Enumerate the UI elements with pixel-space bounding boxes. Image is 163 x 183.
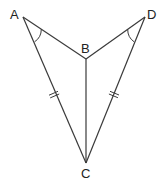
segment-dc bbox=[86, 17, 145, 163]
geometry-diagram: A B C D bbox=[0, 0, 163, 183]
label-c: C bbox=[81, 166, 90, 181]
label-a: A bbox=[10, 7, 19, 22]
angle-arc-a bbox=[35, 29, 42, 42]
angle-arc-d bbox=[128, 29, 134, 42]
label-d: D bbox=[147, 7, 156, 22]
label-b: B bbox=[81, 41, 90, 56]
segment-ac bbox=[23, 17, 86, 163]
